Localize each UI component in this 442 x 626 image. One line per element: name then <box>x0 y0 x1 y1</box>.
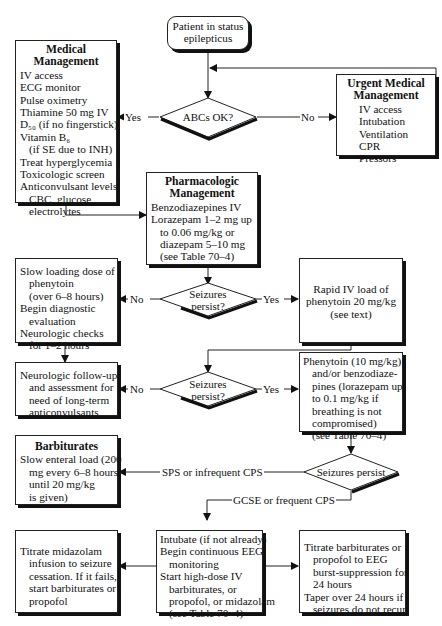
slow-item: Neurologic checks <box>20 327 113 339</box>
urgent-item: Ventilation <box>341 128 431 140</box>
pharm-item: to 0.06 mg/kg or <box>151 226 253 238</box>
midazolam-item: cessation. If it fails, <box>20 570 113 582</box>
intubate-item: Intubate (if not already) <box>160 533 259 545</box>
urgent-item: IV access <box>341 103 431 115</box>
neuro-item: anticonvulsants <box>20 406 113 418</box>
medical-title-2: Management <box>20 56 112 68</box>
burst-item: Titrate barbiturates or <box>304 541 401 553</box>
barbiturates-box: Barbiturates Slow enteral load (200 mg e… <box>15 435 118 505</box>
neuro-followup-box: Neurologic follow-up and assessment for … <box>15 362 118 416</box>
medical-item: Anticonvulsant levels <box>20 180 112 192</box>
medical-item: electrolytes <box>20 205 112 217</box>
medical-management-box: Medical Management IV access ECG monitor… <box>15 40 117 203</box>
abc-decision-label: ABCs OK? <box>178 111 238 123</box>
seizures-2-yes-label: Yes <box>262 383 280 395</box>
urgent-management-box: Urgent Medical Management IV access Intu… <box>336 74 436 156</box>
medical-item: (if SE due to INH) <box>20 143 112 155</box>
barbiturates-item: until 20 mg/kg <box>20 478 113 490</box>
barbiturates-item: is given) <box>20 491 113 503</box>
slow-loading-box: Slow loading dose of phenytoin (over 6–8… <box>15 258 118 343</box>
abc-no-label: No <box>300 111 315 123</box>
seizures-1-line-2: persist? <box>178 300 238 312</box>
intubate-item: propofol, or midazolam <box>160 595 259 607</box>
intubate-item: Start high-dose IV <box>160 570 259 582</box>
urgent-item: Pressors <box>341 152 431 164</box>
phenytoin-benzo-box: Phenytoin (10 mg/kg) and/or benzodiaze- … <box>299 352 403 432</box>
intubate-item: (see Table 70–4) <box>160 607 259 619</box>
pharm-title-2: Management <box>151 188 253 200</box>
rapid-iv-load-box: Rapid IV load of phenytoin 20 mg/kg (see… <box>299 258 403 343</box>
barbiturates-title: Barbiturates <box>20 441 113 453</box>
seizures-2-line-2: persist? <box>178 390 238 402</box>
seizures-3-label: Seizures persist <box>311 466 391 478</box>
phenytoin-item: breathing is not <box>303 405 399 417</box>
urgent-item: Intubation <box>341 115 431 127</box>
slow-item: phenytoin <box>20 277 113 289</box>
burst-item: 24 hours <box>304 578 401 590</box>
midazolam-item: start barbiturates or <box>20 582 113 594</box>
pharm-item: Lorazepam 1–2 mg up <box>151 213 253 225</box>
medical-item: Vitamin B₆ <box>20 131 112 143</box>
rapid-item: (see text) <box>304 308 398 320</box>
phenytoin-item: pines (lorazepam up <box>303 380 399 392</box>
phenytoin-item: (see Table 70–4) <box>303 429 399 441</box>
medical-item: IV access <box>20 69 112 81</box>
medical-item: Toxicologic screen <box>20 168 112 180</box>
seizures-3-gcse-label: GCSE or frequent CPS <box>232 494 336 506</box>
seizures-2-no-label: No <box>129 383 144 395</box>
medical-item: D₅₀ (if no fingerstick) <box>20 118 112 130</box>
phenytoin-item: and/or benzodiaze- <box>303 367 399 379</box>
seizures-1-label: Seizures persist? <box>178 288 238 312</box>
neuro-item: Neurologic follow-up <box>20 369 113 381</box>
medical-item: CBC, glucose, <box>20 193 112 205</box>
start-node: Patient in status epilepticus <box>167 16 249 50</box>
intubate-item: Begin continuous EEG <box>160 545 259 557</box>
intubate-eeg-box: Intubate (if not already) Begin continuo… <box>156 530 263 613</box>
slow-item: for 1–2 hours <box>20 339 113 351</box>
intubate-item: barbiturates, or <box>160 583 259 595</box>
start-line-1: Patient in status <box>172 20 244 32</box>
medical-item: Thiamine 50 mg IV <box>20 106 112 118</box>
midazolam-box: Titrate midazolam infusion to seizure ce… <box>15 530 118 613</box>
neuro-item: and assessment for <box>20 381 113 393</box>
medical-item: Pulse oximetry <box>20 94 112 106</box>
burst-item: propofol to EEG <box>304 553 401 565</box>
phenytoin-item: compromised) <box>303 417 399 429</box>
barbiturates-item: Slow enteral load (200 <box>20 453 113 465</box>
burst-item: seizures do not recur <box>304 603 401 615</box>
seizures-2-line-1: Seizures <box>178 378 238 390</box>
barbiturates-item: mg every 6–8 hours <box>20 466 113 478</box>
midazolam-item: propofol <box>20 595 113 607</box>
abc-yes-label: Yes <box>124 111 142 123</box>
rapid-item: Rapid IV load of <box>304 283 398 295</box>
seizures-2-label: Seizures persist? <box>178 378 238 402</box>
pharmacologic-management-box: Pharmacologic Management Benzodiazepines… <box>146 172 258 265</box>
neuro-item: need of long-term <box>20 394 113 406</box>
burst-suppression-box: Titrate barbiturates or propofol to EEG … <box>299 530 406 613</box>
medical-item: ECG monitor <box>20 81 112 93</box>
slow-item: evaluation <box>20 315 113 327</box>
seizures-1-line-1: Seizures <box>178 288 238 300</box>
midazolam-item: Titrate midazolam <box>20 545 113 557</box>
start-line-2: epilepticus <box>172 32 244 44</box>
pharm-item: Benzodiazepines IV <box>151 201 253 213</box>
slow-item: Slow loading dose of <box>20 265 113 277</box>
urgent-title-2: Management <box>341 90 431 102</box>
phenytoin-item: Phenytoin (10 mg/kg) <box>303 355 399 367</box>
seizures-1-no-label: No <box>129 293 144 305</box>
medical-item: Treat hyperglycemia <box>20 156 112 168</box>
slow-item: (over 6–8 hours) <box>20 290 113 302</box>
burst-item: Taper over 24 hours if <box>304 591 401 603</box>
burst-item: burst-suppression for <box>304 566 401 578</box>
midazolam-item: infusion to seizure <box>20 557 113 569</box>
slow-item: Begin diagnostic <box>20 302 113 314</box>
rapid-item: phenytoin 20 mg/kg <box>304 295 398 307</box>
seizures-3-sps-label: SPS or infrequent CPS <box>161 466 264 478</box>
pharm-item: diazepam 5–10 mg <box>151 238 253 250</box>
pharm-item: (see Table 70–4) <box>151 250 253 262</box>
intubate-item: monitoring <box>160 558 259 570</box>
seizures-1-yes-label: Yes <box>262 293 280 305</box>
phenytoin-item: to 0.1 mg/kg if <box>303 392 399 404</box>
urgent-item: CPR <box>341 140 431 152</box>
